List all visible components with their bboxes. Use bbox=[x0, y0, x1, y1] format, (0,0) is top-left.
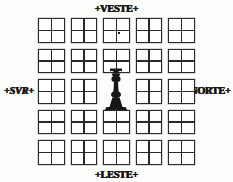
city-block bbox=[136, 49, 163, 74]
city-block bbox=[168, 79, 195, 104]
city-block bbox=[136, 140, 163, 165]
city-block bbox=[168, 110, 195, 135]
city-block bbox=[38, 49, 65, 74]
block-horizontal-divider bbox=[72, 30, 97, 32]
direction-label-bottom: +LESTE+ bbox=[7, 169, 226, 180]
city-block bbox=[168, 49, 195, 74]
block-horizontal-divider bbox=[39, 60, 64, 62]
direction-label-left: +SVR+ bbox=[4, 85, 34, 96]
city-block bbox=[103, 110, 130, 135]
block-horizontal-divider bbox=[137, 91, 162, 93]
city-block bbox=[38, 140, 65, 165]
town-plan-diagram: +VESTE+ +LESTE+ +SVR+ +NORTE+ bbox=[0, 0, 233, 182]
city-block bbox=[71, 49, 98, 74]
block-horizontal-divider bbox=[72, 91, 97, 93]
block-horizontal-divider bbox=[169, 152, 194, 154]
block-horizontal-divider bbox=[104, 60, 129, 62]
block-horizontal-divider bbox=[137, 60, 162, 62]
central-plaza bbox=[103, 79, 130, 104]
city-block-grid bbox=[38, 18, 195, 165]
block-horizontal-divider bbox=[169, 91, 194, 93]
city-block bbox=[38, 110, 65, 135]
block-horizontal-divider bbox=[169, 60, 194, 62]
block-horizontal-divider bbox=[137, 152, 162, 154]
city-block bbox=[103, 140, 130, 165]
city-block bbox=[71, 79, 98, 104]
city-block bbox=[71, 140, 98, 165]
city-block bbox=[38, 79, 65, 104]
city-block bbox=[168, 140, 195, 165]
city-block bbox=[71, 18, 98, 43]
direction-label-top: +VESTE+ bbox=[7, 3, 226, 14]
city-block bbox=[136, 18, 163, 43]
block-horizontal-divider bbox=[39, 30, 64, 32]
block-horizontal-divider bbox=[137, 30, 162, 32]
block-horizontal-divider bbox=[169, 30, 194, 32]
city-block bbox=[136, 110, 163, 135]
block-horizontal-divider bbox=[39, 91, 64, 93]
block-horizontal-divider bbox=[137, 121, 162, 123]
city-block bbox=[168, 18, 195, 43]
monument-column-icon bbox=[101, 68, 131, 114]
block-horizontal-divider bbox=[72, 60, 97, 62]
city-block bbox=[136, 79, 163, 104]
city-block bbox=[71, 110, 98, 135]
block-horizontal-divider bbox=[169, 121, 194, 123]
block-horizontal-divider bbox=[104, 152, 129, 154]
city-block bbox=[103, 18, 130, 43]
block-horizontal-divider bbox=[39, 152, 64, 154]
block-mark-dot bbox=[118, 32, 120, 34]
block-horizontal-divider bbox=[72, 121, 97, 123]
block-horizontal-divider bbox=[39, 121, 64, 123]
block-horizontal-divider bbox=[104, 30, 129, 32]
block-horizontal-divider bbox=[104, 121, 129, 123]
block-horizontal-divider bbox=[72, 152, 97, 154]
city-block bbox=[38, 18, 65, 43]
